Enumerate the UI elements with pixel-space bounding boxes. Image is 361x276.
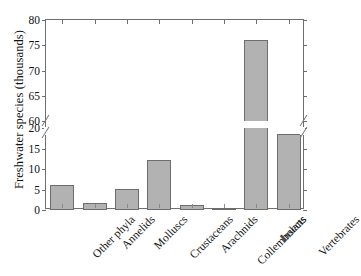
x-axis-tick-bottom <box>95 204 96 208</box>
y-axis-tick-right <box>303 169 307 170</box>
y-axis-tick-label: 5 <box>34 184 40 196</box>
x-axis-tick-bottom <box>256 204 257 208</box>
x-axis-tick-bottom <box>159 204 160 208</box>
y-axis-tick-right <box>303 190 307 191</box>
x-axis-tick-top <box>289 20 290 24</box>
y-axis-tick-right <box>303 71 307 72</box>
y-axis-tick-right <box>303 149 307 150</box>
y-axis-tick-left <box>42 149 46 150</box>
plot-area: 051015206065707580 <box>46 20 303 208</box>
y-axis-tick-left <box>42 96 46 97</box>
y-axis-tick-label: 65 <box>29 90 41 102</box>
y-axis-tick-label: 80 <box>29 14 41 26</box>
y-axis-tick-label: 70 <box>29 65 41 77</box>
y-axis-tick-label: 0 <box>34 204 40 216</box>
x-axis-tick-top <box>192 20 193 24</box>
x-axis-tick-top <box>62 20 63 24</box>
y-axis-tick-label: 60 <box>29 115 41 127</box>
x-axis-tick-bottom <box>192 204 193 208</box>
x-axis-category-label: Vertebrates <box>316 213 361 258</box>
x-axis-tick-top <box>256 20 257 24</box>
y-axis-tick-right <box>303 210 307 211</box>
y-axis-tick-label: 15 <box>29 143 41 155</box>
y-axis-tick-right <box>303 45 307 46</box>
bar <box>147 160 171 210</box>
x-axis-category-label: Molluscs <box>151 213 189 251</box>
y-axis-tick-label: 75 <box>29 39 41 51</box>
x-axis-tick-bottom <box>127 204 128 208</box>
y-axis-tick-label: 10 <box>29 163 41 175</box>
x-axis-tick-bottom <box>289 204 290 208</box>
y-axis-tick-left <box>42 45 46 46</box>
x-axis-tick-top <box>127 20 128 24</box>
y-axis-tick-left <box>42 169 46 170</box>
x-axis-tick-bottom <box>224 204 225 208</box>
y-axis-title: Freshwater species (thousands) <box>12 5 27 215</box>
y-axis-tick-left <box>42 71 46 72</box>
y-axis-tick-left <box>42 210 46 211</box>
y-axis-tick-left <box>42 20 46 21</box>
y-axis-tick-right <box>303 96 307 97</box>
bar <box>244 40 268 121</box>
bar <box>277 134 301 210</box>
y-axis-tick-left <box>42 190 46 191</box>
x-axis-tick-top <box>95 20 96 24</box>
bar <box>244 128 268 210</box>
x-axis-tick-top <box>224 20 225 24</box>
x-axis-tick-top <box>159 20 160 24</box>
x-axis-tick-bottom <box>62 204 63 208</box>
plot-frame: 051015206065707580 <box>45 19 304 209</box>
x-axis-category-label: Insects <box>278 213 309 244</box>
bar <box>212 208 236 210</box>
y-axis-tick-right <box>303 20 307 21</box>
